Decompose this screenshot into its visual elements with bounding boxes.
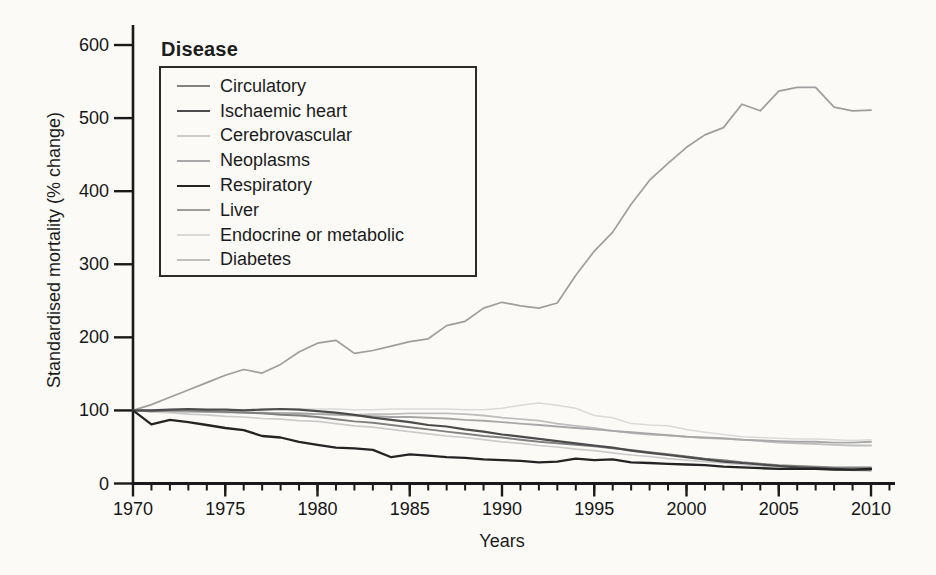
y-tick-label: 400 [79, 181, 109, 201]
x-tick-label: 2000 [666, 499, 706, 519]
x-tick-label: 1990 [482, 499, 522, 519]
legend-item-respiratory: Respiratory [177, 173, 475, 198]
x-axis-title: Years [479, 531, 524, 552]
legend-item-label: Liver [220, 200, 259, 221]
y-tick-label: 300 [79, 254, 109, 274]
legend-item-label: Diabetes [220, 249, 291, 270]
legend-swatch-cerebrovascular [177, 135, 210, 137]
legend: CirculatoryIschaemic heartCerebrovascula… [159, 66, 477, 277]
legend-swatch-neoplasms [177, 160, 210, 162]
figure: 0100200300400500600197019751980198519901… [0, 0, 936, 575]
legend-item-diabetes: Diabetes [177, 248, 475, 273]
legend-item-neoplasms: Neoplasms [177, 148, 475, 173]
legend-item-ischaemic-heart: Ischaemic heart [177, 99, 475, 124]
y-tick-label: 100 [79, 400, 109, 420]
legend-swatch-diabetes [177, 259, 210, 261]
legend-swatch-circulatory [177, 85, 210, 87]
legend-item-label: Endocrine or metabolic [220, 225, 404, 246]
legend-item-liver: Liver [177, 198, 475, 223]
legend-items: CirculatoryIschaemic heartCerebrovascula… [177, 74, 475, 272]
legend-swatch-liver [177, 209, 210, 211]
x-tick-label: 1970 [113, 499, 153, 519]
legend-item-label: Circulatory [220, 76, 306, 97]
legend-title: Disease [161, 38, 238, 61]
legend-item-endocrine-or-metabolic: Endocrine or metabolic [177, 223, 475, 248]
legend-item-circulatory: Circulatory [177, 74, 475, 99]
legend-item-label: Ischaemic heart [220, 101, 347, 122]
y-tick-label: 200 [79, 327, 109, 347]
legend-item-label: Respiratory [220, 175, 312, 196]
legend-item-label: Cerebrovascular [220, 125, 352, 146]
x-tick-label: 1995 [574, 499, 614, 519]
x-tick-label: 2005 [759, 499, 799, 519]
series-line-circulatory [133, 410, 871, 467]
y-tick-label: 0 [99, 474, 109, 494]
x-tick-label: 1975 [205, 499, 245, 519]
y-axis-title: Standardised mortality (% change) [44, 112, 65, 388]
y-tick-label: 500 [79, 108, 109, 128]
y-tick-label: 600 [79, 35, 109, 55]
legend-swatch-respiratory [177, 185, 210, 187]
legend-item-label: Neoplasms [220, 150, 310, 171]
legend-swatch-ischaemic-heart [177, 110, 210, 112]
legend-swatch-endocrine-or-metabolic [177, 234, 210, 236]
x-tick-label: 1980 [297, 499, 337, 519]
legend-item-cerebrovascular: Cerebrovascular [177, 124, 475, 149]
x-tick-label: 2010 [851, 499, 891, 519]
x-tick-label: 1985 [390, 499, 430, 519]
